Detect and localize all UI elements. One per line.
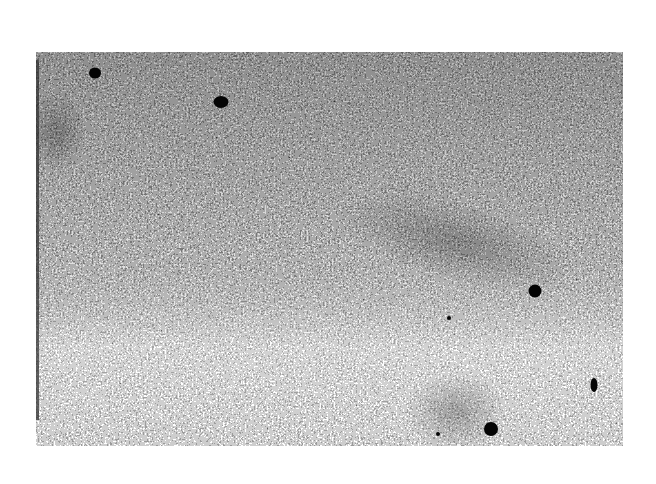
micrograph-frame (36, 52, 623, 446)
gold-particle (214, 96, 229, 108)
gold-particle (591, 378, 598, 392)
gold-particle (529, 285, 542, 298)
gold-particle (89, 68, 101, 79)
gold-particle (436, 432, 440, 436)
gold-particle (447, 316, 451, 320)
noise-texture (36, 52, 623, 446)
frame-left-edge (36, 60, 39, 420)
gold-particle (484, 422, 498, 436)
